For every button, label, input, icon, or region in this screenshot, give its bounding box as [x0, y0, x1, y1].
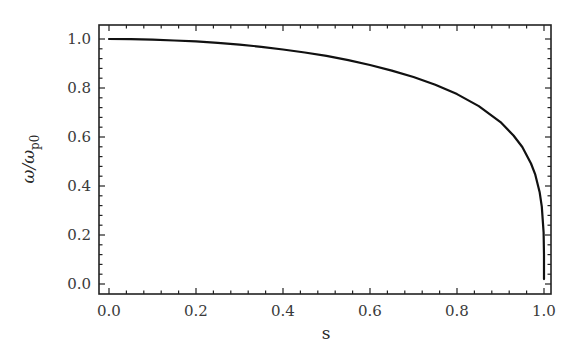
y-tick-label: 1.0: [67, 30, 91, 48]
y-tick-label: 0.2: [67, 226, 91, 244]
y-tick-label: 0.8: [67, 79, 91, 97]
x-tick-label: 0.4: [271, 302, 295, 320]
ticks: [99, 25, 551, 294]
y-axis-label: ω/ωp0: [18, 135, 42, 184]
y-tick-label: 0.0: [67, 275, 91, 293]
x-tick-label: 0.2: [184, 302, 208, 320]
x-tick-label: 0.6: [358, 302, 382, 320]
chart: 0.00.20.40.60.81.00.00.20.40.60.81.0 s ω…: [0, 0, 586, 353]
x-tick-label: 0.0: [97, 302, 121, 320]
y-tick-label: 0.6: [67, 128, 91, 146]
y-tick-label: 0.4: [67, 177, 91, 195]
x-tick-label: 0.8: [445, 302, 469, 320]
x-tick-label: 1.0: [532, 302, 556, 320]
y-axis-label-sub: p0: [28, 135, 42, 150]
x-axis-label: s: [322, 323, 331, 343]
data-curve: [109, 39, 544, 279]
plot-frame: [99, 25, 551, 294]
tick-labels: 0.00.20.40.60.81.00.00.20.40.60.81.0: [67, 30, 556, 320]
y-axis-label-main: ω/ω: [18, 150, 38, 184]
